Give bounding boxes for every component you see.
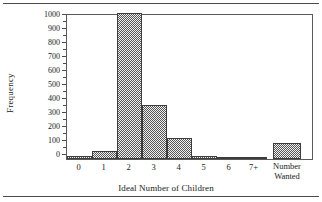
x-axis: 0 1 2 3 4 5 6 7+ Number Wanted <box>66 162 313 184</box>
bar-series <box>67 15 312 159</box>
x-tick-label-2: 2 <box>116 162 141 172</box>
y-axis-title: Frequency <box>5 50 19 136</box>
page-rule-top <box>3 3 319 4</box>
x-tick-label-number-wanted: Number Wanted <box>264 162 310 181</box>
bar-3 <box>142 105 167 159</box>
page-rule-bottom <box>3 196 319 197</box>
bar-6 <box>217 157 242 159</box>
bar-2 <box>117 13 142 159</box>
x-tick-label-6: 6 <box>216 162 241 172</box>
bar-7plus <box>242 157 267 159</box>
x-tick-label-1: 1 <box>91 162 116 172</box>
x-tick-label-0: 0 <box>66 162 91 172</box>
figure-container: Frequency 1000 900 800 700 600 500 400 3… <box>0 0 322 202</box>
x-axis-title: Ideal Number of Children <box>66 183 266 193</box>
x-tick-label-3: 3 <box>141 162 166 172</box>
x-tick-label-number-wanted-line2: Wanted <box>264 172 310 182</box>
bar-number-wanted <box>273 143 301 159</box>
bar-5 <box>192 156 217 159</box>
x-tick-label-5: 5 <box>191 162 216 172</box>
bar-0 <box>67 156 92 159</box>
bar-4 <box>167 138 192 159</box>
bar-1 <box>92 151 117 159</box>
y-axis: Frequency 1000 900 800 700 600 500 400 3… <box>0 10 66 166</box>
x-tick-label-7plus: 7+ <box>241 162 266 172</box>
x-tick-label-4: 4 <box>166 162 191 172</box>
